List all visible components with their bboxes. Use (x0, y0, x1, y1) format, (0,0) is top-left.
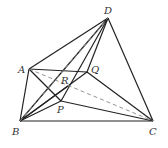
dashed-segment-ac (29, 69, 153, 121)
segment-ad (29, 18, 108, 69)
geometry-diagram: A B C D Q P R (0, 0, 168, 148)
segment-ab (20, 69, 29, 121)
segment-dc (108, 18, 153, 121)
label-a: A (17, 64, 25, 75)
label-r: R (60, 75, 69, 86)
label-b: B (11, 126, 19, 137)
label-c: C (149, 126, 157, 137)
solid-segments (20, 18, 153, 121)
segment-ap (29, 69, 61, 101)
label-q: Q (91, 64, 99, 75)
label-d: D (103, 5, 112, 16)
label-p: P (56, 104, 64, 115)
segment-bp (20, 101, 61, 121)
segment-pd (61, 18, 108, 101)
